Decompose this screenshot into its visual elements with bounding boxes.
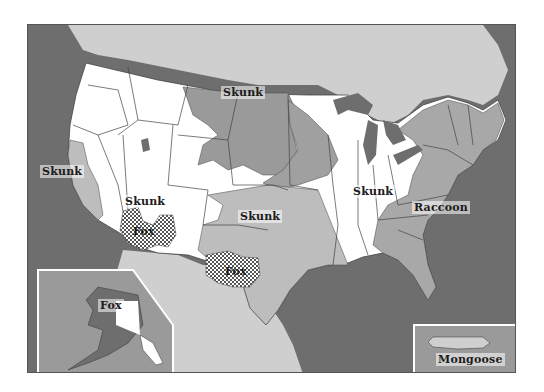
map-frame: Skunk Skunk Skunk Fox Skunk Fox Skunk Ra… [27,24,516,373]
label-skunk-southwest: Skunk [123,195,167,208]
label-skunk-california: Skunk [40,165,84,178]
label-fox-texas: Fox [223,265,249,278]
us-map [28,25,516,373]
label-mongoose-puerto-rico: Mongoose [436,353,505,366]
label-raccoon-east: Raccoon [412,201,470,214]
label-skunk-south-central: Skunk [238,210,282,223]
label-skunk-north-central: Skunk [221,86,265,99]
puerto-rico-land [428,337,490,349]
label-skunk-east-central: Skunk [351,185,395,198]
label-fox-arizona: Fox [131,225,157,238]
label-fox-alaska: Fox [98,299,124,312]
